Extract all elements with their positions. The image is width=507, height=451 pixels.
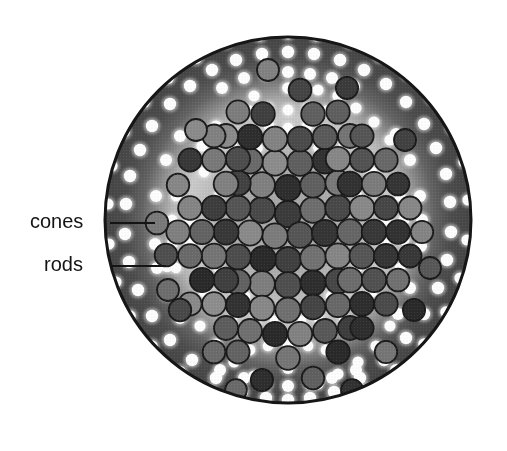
figure-canvas: conesrods	[0, 0, 507, 451]
retina-fovea-figure: conesrods	[0, 0, 507, 451]
halftone-texture	[105, 37, 471, 403]
label-rods: rods	[44, 253, 83, 275]
label-cones: cones	[30, 210, 83, 232]
